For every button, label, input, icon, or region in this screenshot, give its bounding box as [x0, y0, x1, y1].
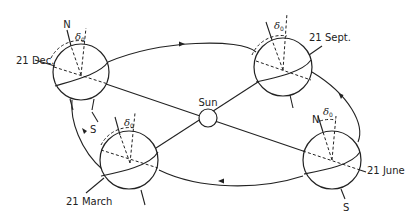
june-date-label: 21 June	[367, 165, 405, 176]
june-north-label: N	[312, 114, 319, 125]
orbit-arrow-left	[82, 128, 87, 134]
orbit-arrow-right	[339, 93, 344, 99]
march-south-axis	[141, 190, 145, 205]
march-south-label: S	[90, 124, 96, 135]
orbit-arrow-top	[179, 42, 185, 47]
globe-june: N δ 0 21 June S	[303, 106, 405, 213]
dec-north-label: N	[63, 19, 70, 30]
june-south-axis	[341, 189, 345, 199]
globe-march: S δ 0 21 March	[66, 112, 158, 207]
sept-south-axis	[290, 95, 293, 108]
dec-north-axis	[67, 30, 71, 46]
sun-circle	[199, 109, 217, 127]
svg-text:0: 0	[280, 25, 284, 32]
sun: Sun	[198, 97, 217, 127]
dec-date-label: 21 Dec.	[16, 55, 54, 66]
march-date-label: 21 March	[66, 196, 112, 207]
svg-text:0: 0	[81, 36, 85, 43]
orbit-diagram: Sun N δ 0 21 Dec. δ 0 21 Sept.	[0, 0, 414, 219]
orbit-arrow-bottom	[218, 179, 224, 184]
svg-text:0: 0	[329, 111, 333, 118]
sept-date-label: 21 Sept.	[309, 32, 351, 43]
sun-label: Sun	[198, 97, 217, 108]
june-south-label: S	[343, 202, 349, 213]
globe-sept: δ 0 21 Sept.	[252, 13, 351, 108]
globe-dec: N δ 0 21 Dec.	[16, 19, 109, 110]
svg-text:0: 0	[130, 122, 134, 129]
